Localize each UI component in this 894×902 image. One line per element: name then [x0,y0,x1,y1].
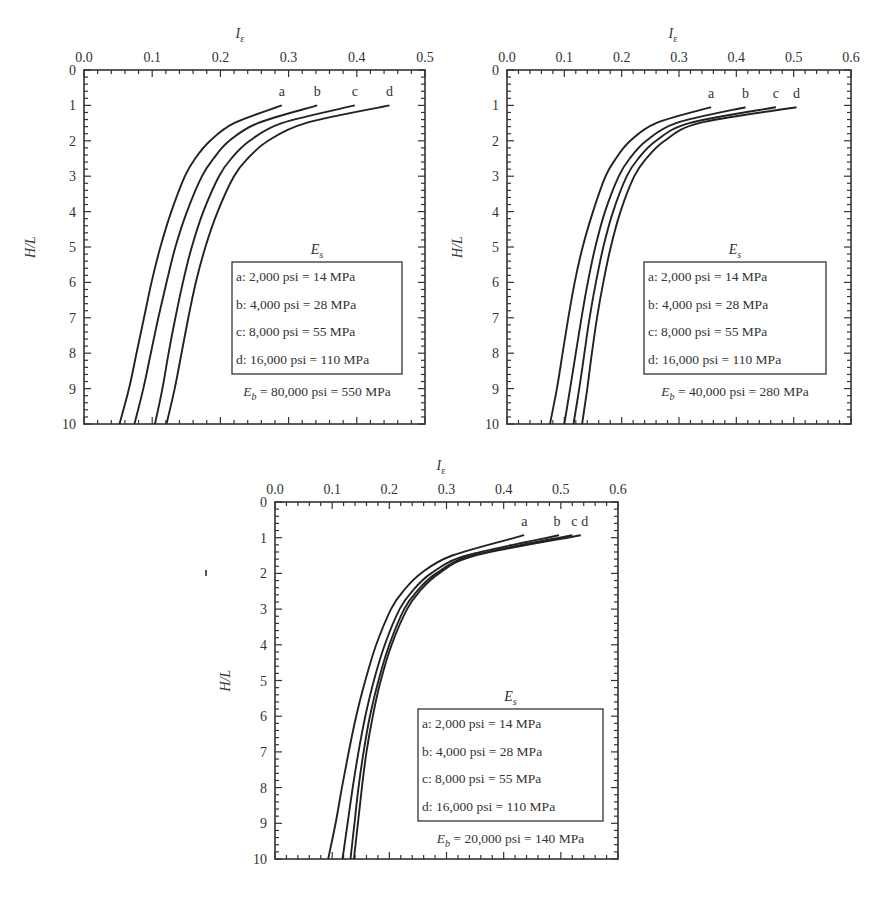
x-tick-label: 0.2 [212,50,230,65]
y-tick-label: 2 [260,566,267,581]
y-tick-label: 6 [492,275,499,290]
y-tick-label: 0 [69,63,76,78]
curve-label-b: b [554,514,561,529]
y-tick-label: 5 [260,674,267,689]
x-tick-label: 0.2 [381,482,399,497]
legend: Esa: 2,000 psi = 14 MPab: 4,000 psi = 28… [644,242,826,402]
x-tick-label: 0.6 [609,482,627,497]
eb-label: Eb = 20,000 psi = 140 MPa [436,831,584,849]
x-tick-label: 0.0 [75,50,93,65]
legend-title: Es [728,242,742,260]
y-tick-label: 1 [492,98,499,113]
legend-entry: d: 16,000 psi = 110 MPa [422,799,555,814]
legend-entry: d: 16,000 psi = 110 MPa [648,352,781,367]
curve-label-c: c [773,86,779,101]
curve-label-d: d [386,84,393,99]
y-tick-label: 2 [69,134,76,149]
x-tick-label: 0.5 [552,482,570,497]
x-tick-label: 0.1 [323,482,341,497]
x-tick-label: 0.1 [556,50,574,65]
x-tick-label: 0.5 [416,50,434,65]
legend-entry: b: 4,000 psi = 28 MPa [236,297,356,312]
x-tick-label: 0.4 [495,482,513,497]
curve-label-c: c [352,84,358,99]
y-tick-label: 5 [492,240,499,255]
curve-label-a: a [708,86,715,101]
x-tick-label: 0.4 [348,50,366,65]
y-axis-title: H/L [450,236,465,259]
y-tick-label: 6 [69,275,76,290]
legend-entry: c: 8,000 psi = 55 MPa [236,324,355,339]
chart-panel-2: 0.00.10.20.30.40.50.6012345678910IεH/Lab… [450,26,860,432]
chart-panel-3: 0.00.10.20.30.40.50.6012345678910IεH/Lab… [218,458,627,867]
y-tick-label: 1 [69,98,76,113]
y-tick-label: 2 [492,134,499,149]
y-tick-label: 3 [69,169,76,184]
y-axis-title: H/L [218,669,233,692]
curve-label-a: a [279,84,286,99]
y-tick-label: 9 [69,382,76,397]
y-axis-title: H/L [23,236,38,259]
y-tick-label: 9 [492,382,499,397]
y-tick-label: 4 [260,638,267,653]
x-tick-label: 0.3 [438,482,456,497]
y-tick-label: 10 [62,417,76,432]
x-tick-label: 0.0 [498,50,516,65]
legend: Esa: 2,000 psi = 14 MPab: 4,000 psi = 28… [418,689,603,849]
x-axis-title: Iε [235,26,245,44]
curve-label-a: a [521,514,528,529]
eb-label: Eb = 40,000 psi = 280 MPa [660,384,808,402]
curve-label-b: b [314,84,321,99]
x-axis-title: Iε [668,26,678,44]
legend-entry: c: 8,000 psi = 55 MPa [422,771,541,786]
curve-label-c: c [571,514,577,529]
x-tick-label: 0.1 [143,50,161,65]
chart-panel-1: 0.00.10.20.30.40.5012345678910IεH/LabcdE… [23,26,434,432]
y-tick-label: 0 [492,63,499,78]
x-tick-label: 0.5 [785,50,803,65]
legend-title: Es [503,689,517,707]
y-tick-label: 10 [253,852,267,867]
y-tick-label: 8 [69,346,76,361]
y-tick-label: 6 [260,709,267,724]
y-tick-label: 4 [492,205,499,220]
x-tick-label: 0.6 [842,50,860,65]
y-tick-label: 8 [260,781,267,796]
legend-entry: a: 2,000 psi = 14 MPa [422,716,541,731]
legend: Esa: 2,000 psi = 14 MPab: 4,000 psi = 28… [232,242,402,402]
y-tick-label: 0 [260,495,267,510]
x-tick-label: 0.4 [728,50,746,65]
y-tick-label: 8 [492,346,499,361]
x-tick-label: 0.2 [613,50,631,65]
x-tick-label: 0.3 [670,50,688,65]
x-axis-title: Iε [436,458,446,476]
x-tick-label: 0.0 [266,482,284,497]
figure-canvas: 0.00.10.20.30.40.5012345678910IεH/LabcdE… [0,0,894,902]
y-tick-label: 3 [492,169,499,184]
curve-label-d: d [793,86,800,101]
legend-entry: b: 4,000 psi = 28 MPa [648,297,768,312]
y-tick-label: 7 [69,311,76,326]
y-tick-label: 7 [492,311,499,326]
y-tick-label: 1 [260,531,267,546]
legend-entry: d: 16,000 psi = 110 MPa [236,352,369,367]
legend-entry: b: 4,000 psi = 28 MPa [422,744,542,759]
legend-entry: a: 2,000 psi = 14 MPa [236,269,355,284]
y-tick-label: 9 [260,816,267,831]
x-tick-label: 0.3 [280,50,298,65]
y-tick-label: 10 [485,417,499,432]
y-tick-label: 7 [260,745,267,760]
y-tick-label: 5 [69,240,76,255]
legend-entry: c: 8,000 psi = 55 MPa [648,324,767,339]
curve-label-b: b [742,86,749,101]
legend-entry: a: 2,000 psi = 14 MPa [648,269,767,284]
curve-label-d: d [581,514,588,529]
eb-label: Eb = 80,000 psi = 550 MPa [242,384,390,402]
stray-mark [205,570,207,576]
legend-title: Es [310,242,324,260]
y-tick-label: 4 [69,205,76,220]
y-tick-label: 3 [260,602,267,617]
